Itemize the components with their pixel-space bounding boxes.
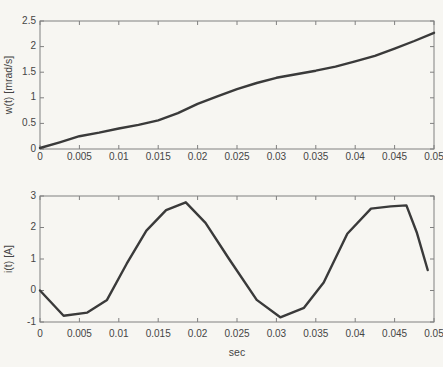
x-tick-label: 0.05 [424, 151, 443, 162]
w-plot-curve [40, 33, 434, 148]
y-tick-label: 0 [30, 284, 36, 295]
x-tick-label: 0.03 [267, 151, 287, 162]
i-plot-curve [40, 202, 428, 317]
x-tick-label: 0.01 [109, 328, 129, 339]
y-tick-label: 1.5 [22, 66, 36, 77]
y-tick-label: 0.5 [22, 117, 36, 128]
w-plot-ylabel: w(t) [mrad/s] [2, 56, 14, 115]
x-tick-label: 0.005 [67, 151, 92, 162]
i-plot-ylabel: i(t) [A] [2, 245, 14, 273]
y-tick-label: -1 [27, 316, 36, 327]
i-plot-box [40, 196, 434, 322]
x-tick-label: 0.01 [109, 151, 129, 162]
x-tick-label: 0.03 [267, 328, 287, 339]
y-tick-label: 3 [30, 190, 36, 201]
x-tick-label: 0.015 [146, 328, 171, 339]
x-tick-label: 0.05 [424, 328, 443, 339]
matlab-figure: 00.0050.010.0150.020.0250.030.0350.040.0… [0, 0, 443, 367]
i-plot-xlabel: sec [229, 346, 245, 358]
x-tick-label: 0.015 [146, 151, 171, 162]
x-tick-label: 0.04 [345, 328, 365, 339]
y-tick-label: 1 [30, 253, 36, 264]
x-tick-label: 0 [37, 151, 43, 162]
x-tick-label: 0.02 [188, 328, 208, 339]
y-tick-label: 2 [30, 40, 36, 51]
w-plot-box [40, 21, 434, 149]
y-tick-label: 2.5 [22, 15, 36, 26]
x-tick-label: 0.005 [67, 328, 92, 339]
y-tick-label: 1 [30, 91, 36, 102]
x-tick-label: 0.025 [224, 328, 249, 339]
y-tick-label: 0 [30, 143, 36, 154]
x-tick-label: 0.035 [303, 151, 328, 162]
x-tick-label: 0.025 [224, 151, 249, 162]
charts-svg: 00.0050.010.0150.020.0250.030.0350.040.0… [0, 0, 443, 367]
x-tick-label: 0.04 [345, 151, 365, 162]
x-tick-label: 0.045 [382, 151, 407, 162]
x-tick-label: 0.035 [303, 328, 328, 339]
x-tick-label: 0 [37, 328, 43, 339]
x-tick-label: 0.02 [188, 151, 208, 162]
y-tick-label: 2 [30, 221, 36, 232]
x-tick-label: 0.045 [382, 328, 407, 339]
